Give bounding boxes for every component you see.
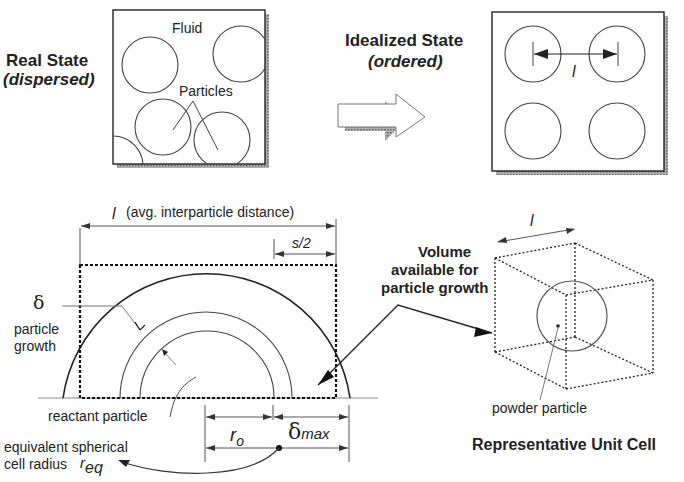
volume-label-1: Volume (418, 244, 471, 259)
volume-label-3: particle growth (381, 280, 489, 295)
fluid-label: Fluid (172, 21, 202, 35)
transition-arrow (338, 94, 425, 141)
req-label-1: equivalent spherical (4, 440, 128, 454)
unit-cell-title: Representative Unit Cell (472, 437, 656, 453)
real-state-box (83, 10, 269, 196)
delta-symbol: δ (33, 293, 44, 312)
dmax-label: δmax (288, 421, 330, 443)
powder-particle-label: powder particle (492, 401, 587, 415)
req-subscript: eq (85, 459, 103, 476)
interparticle-label: (avg. interparticle distance) (126, 205, 294, 219)
unit-cell-cube (495, 243, 653, 389)
edge-dimension (498, 229, 574, 242)
dmax-symbol: δ (288, 419, 301, 444)
idealized-state-subtitle: (ordered) (368, 53, 443, 70)
cell-boundary-arc (63, 274, 350, 398)
idealized-state-box (492, 12, 668, 175)
powder-particle-circle (537, 281, 607, 351)
r0-subscript: o (236, 433, 244, 449)
req-label-2: cell radius (4, 457, 67, 471)
req-symbol-group: req (80, 455, 103, 471)
growth-label-1: particle (14, 322, 59, 336)
reactant-label: reactant particle (48, 409, 148, 423)
real-state-title: Real State (6, 52, 88, 69)
edge-l-symbol: l (530, 213, 534, 229)
particles-label: Particles (179, 84, 233, 98)
idealized-state-title: Idealized State (345, 32, 463, 49)
grown-particle-arc (120, 312, 292, 398)
half-gap-label: s/2 (292, 236, 311, 250)
powder-particle-leader (540, 328, 558, 400)
volume-label-2: available for (391, 262, 479, 277)
particle-center-dot (556, 324, 560, 328)
growth-label-2: growth (14, 339, 56, 353)
dmax-subscript: max (301, 425, 329, 442)
spacing-l-symbol: l (572, 64, 576, 80)
r0-label: ro (230, 425, 244, 444)
real-state-subtitle: (dispersed) (3, 71, 95, 88)
interparticle-symbol: l (112, 206, 116, 222)
reactant-particle-arc (140, 331, 274, 398)
